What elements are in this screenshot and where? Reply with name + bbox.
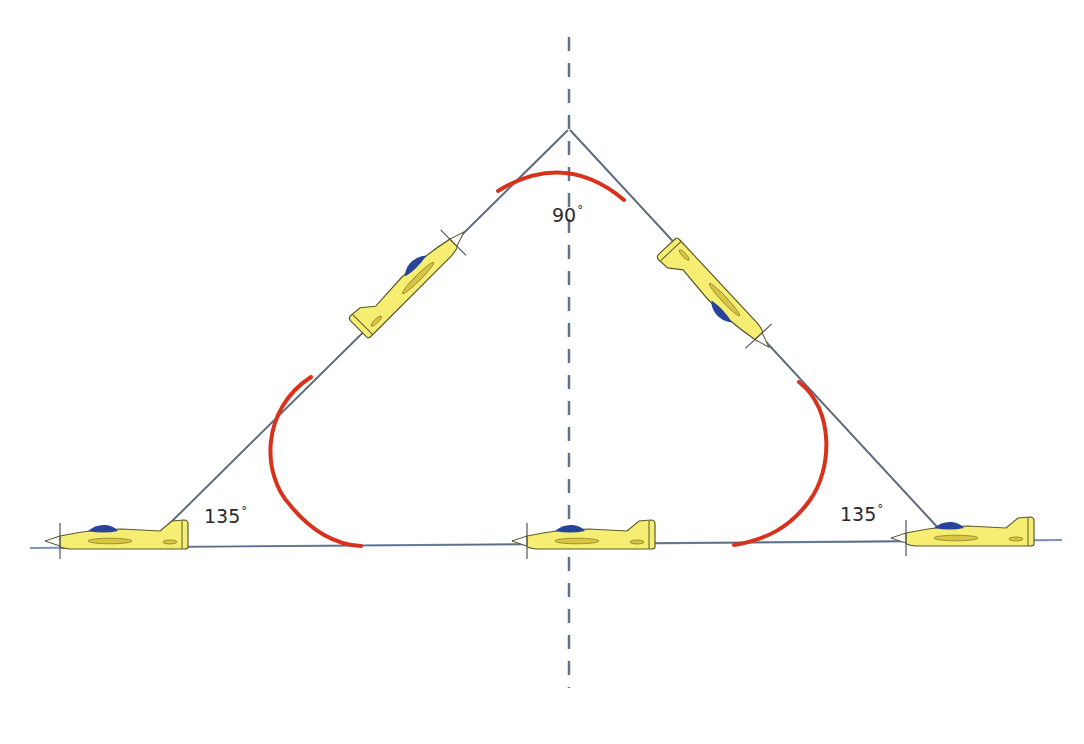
left-corner-angle-value: 135: [204, 505, 240, 527]
plane-left-horizontal: [45, 520, 188, 559]
degree-symbol: °: [877, 502, 883, 516]
plane-right-descent: [656, 230, 782, 361]
left-turn-arc: [270, 377, 361, 546]
plane-left-climb: [348, 217, 477, 346]
apex-angle-value: 90: [552, 204, 576, 226]
apex-angle-label: 90°: [552, 206, 583, 225]
right-corner-angle-label: 135°: [840, 505, 883, 524]
right-turn-arc: [734, 382, 826, 545]
plane-center-horizontal: [512, 520, 655, 559]
right-corner-angle-value: 135: [840, 503, 876, 525]
degree-symbol: °: [241, 504, 247, 518]
plane-right-horizontal: [891, 517, 1034, 556]
left-corner-angle-label: 135°: [204, 507, 247, 526]
apex-turn-arc: [498, 173, 624, 200]
triangle-maneuver-diagram: [0, 0, 1084, 744]
degree-symbol: °: [577, 203, 583, 217]
